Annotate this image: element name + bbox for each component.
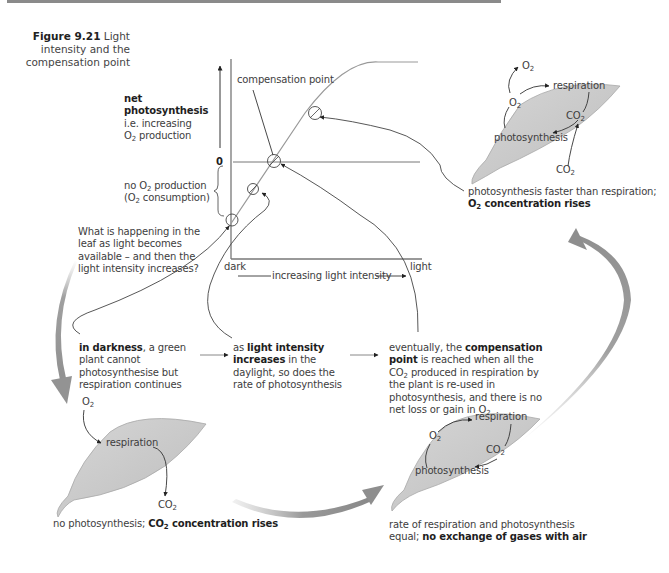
y-label-line2: i.e. increasing [124,118,224,130]
x-dark-label: dark [224,261,246,273]
dark-leaf-co2: CO2 [158,499,177,511]
y-axis-label: net photosynthesis i.e. increasing O2 pr… [124,93,224,143]
stage-increasing: as light intensity increases in the dayl… [233,342,351,392]
zero-label: 0 [216,156,223,168]
figure-caption: Figure 9.21 Light intensity and the comp… [14,30,130,69]
light-leaf-o2: O2 [509,97,521,109]
equal-leaf-respiration: respiration [475,411,527,423]
x-light-label: light [410,261,431,273]
equal-leaf-photosynthesis: photosynthesis [415,465,489,477]
point-dark [226,214,238,226]
net-photosynthesis-label: net photosynthesis [124,93,224,118]
light-leaf-co2-in: CO2 [556,164,575,176]
light-leaf-photosynthesis: photosynthesis [494,132,568,144]
x-axis-label: increasing light intensity [272,270,391,282]
cycle-arrow-bottom [232,496,374,518]
stage-compensation: eventually, the compensation point is re… [389,342,547,416]
photosynthesis-curve [228,62,418,228]
figure-number: Figure 9.21 [33,30,101,42]
light-leaf-o2-out: O2 [522,60,534,72]
light-leaf-respiration: respiration [553,80,605,92]
leaf-dark [57,410,206,517]
question-text: What is happening in the leaf as light b… [78,226,210,276]
equal-leaf-caption: rate of respiration and photosynthesis e… [389,519,609,544]
below-zero-label: no O2 production (O2 consumption) [124,180,216,205]
y-label-line3: O2 production [124,130,224,142]
light-leaf-caption: photosynthesis faster than respiration; … [468,186,668,211]
dark-leaf-o2: O2 [82,396,94,408]
graph [214,59,422,276]
dark-leaf-respiration: respiration [106,437,158,449]
dark-leaf-caption: no photosynthesis; CO2 concentration ris… [53,518,293,530]
equal-leaf-co2: CO2 [486,444,505,456]
leaf-equal [392,414,541,511]
light-leaf-co2: CO2 [566,110,585,122]
equal-leaf-o2: O2 [429,430,441,442]
compensation-pointer [253,90,273,155]
stage-darkness: in darkness, a green plant cannot photos… [79,342,199,392]
compensation-point-label: compensation point [237,74,334,86]
